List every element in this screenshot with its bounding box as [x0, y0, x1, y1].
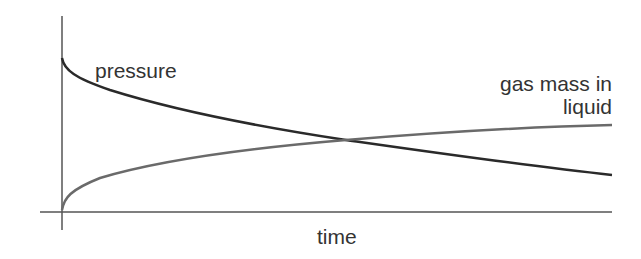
gas-mass-label-line2: liquid: [563, 96, 612, 118]
diagram-canvas: [0, 0, 641, 259]
gas-mass-label-line1: gas mass in: [500, 73, 612, 95]
pressure-label: pressure: [95, 60, 177, 82]
x-axis-label: time: [317, 226, 357, 248]
